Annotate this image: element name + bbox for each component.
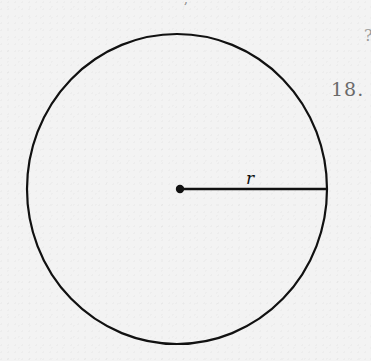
radius-label: r <box>246 168 255 188</box>
circle-figure: r <box>0 0 371 361</box>
center-point <box>176 185 184 193</box>
textbook-page: , ? 18. r <box>0 0 371 361</box>
